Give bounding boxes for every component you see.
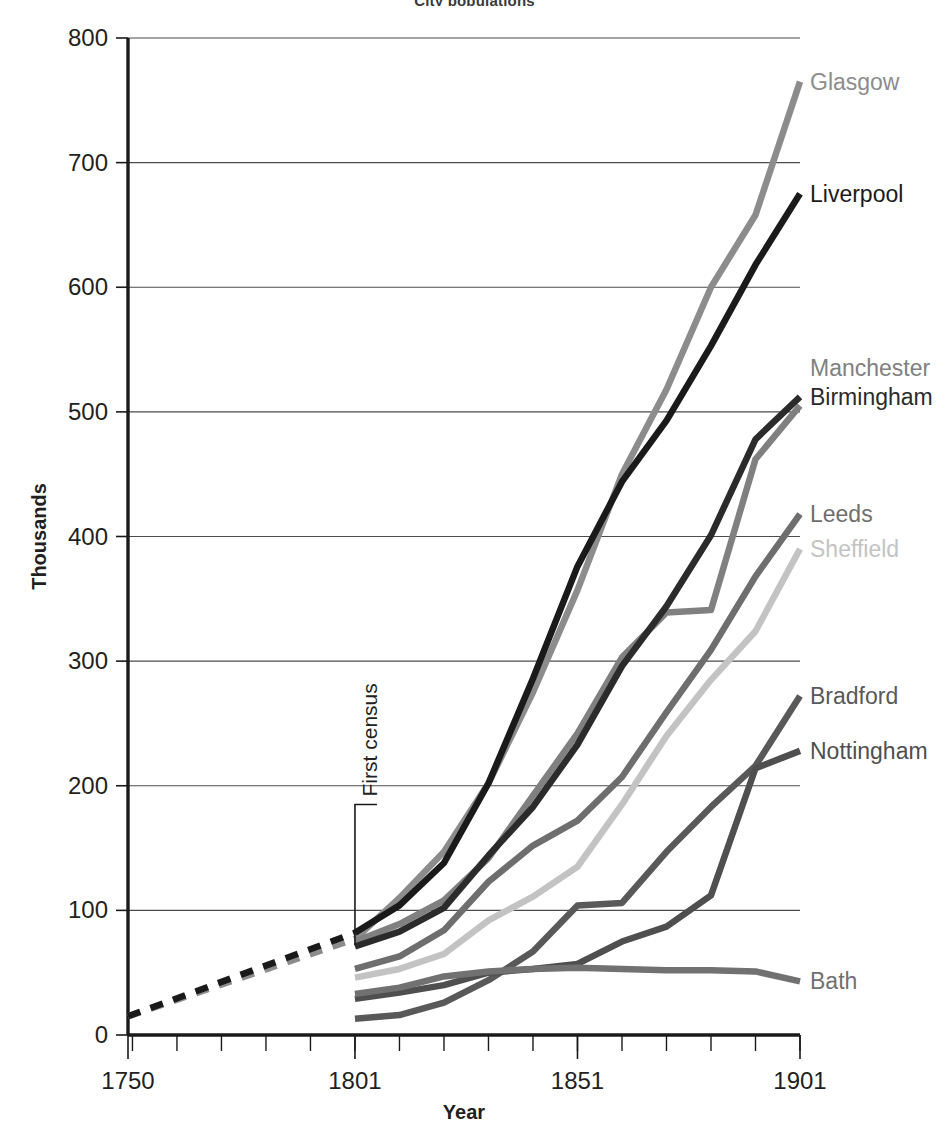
series-label-liverpool: Liverpool (810, 181, 903, 207)
y-axis-title: Thousands (28, 483, 50, 590)
series-labels-group: GlasgowLiverpoolManchesterBirminghamLeed… (810, 69, 933, 995)
series-line-glasgow (355, 82, 800, 939)
y-tick-group: 0100200300400500600700800 (68, 24, 128, 1048)
x-tick-label: 1901 (773, 1067, 826, 1094)
series-label-nottingham: Nottingham (810, 738, 928, 764)
x-tick-label: 1801 (328, 1067, 381, 1094)
y-tick-label: 500 (68, 398, 108, 425)
population-line-chart: 0100200300400500600700800 17501801185119… (0, 0, 949, 1141)
first-census-annotation: First census (355, 683, 381, 945)
series-label-sheffield: Sheffield (810, 536, 899, 562)
series-label-glasgow: Glasgow (810, 69, 900, 95)
series-label-birmingham: Birmingham (810, 384, 933, 410)
y-tick-label: 200 (68, 772, 108, 799)
x-tick-label: 1750 (101, 1067, 154, 1094)
chart-page: City populations 01002003004005006007008… (0, 0, 949, 1141)
series-lines-group (355, 82, 800, 1019)
series-dashed-estimate-liverpool (128, 933, 355, 1016)
y-tick-label: 300 (68, 647, 108, 674)
y-tick-label: 100 (68, 896, 108, 923)
gridlines-group (128, 38, 800, 910)
y-tick-label: 0 (95, 1021, 108, 1048)
first-census-label: First census (358, 683, 381, 796)
series-label-manchester: Manchester (810, 355, 931, 381)
series-label-leeds: Leeds (810, 501, 873, 527)
y-tick-label: 800 (68, 24, 108, 51)
x-tick-label: 1851 (551, 1067, 604, 1094)
x-axis-title: Year (443, 1101, 485, 1123)
y-tick-label: 700 (68, 149, 108, 176)
series-label-bradford: Bradford (810, 683, 898, 709)
pre-census-dashed-series-group (128, 933, 355, 1016)
series-label-bath: Bath (810, 968, 857, 994)
y-tick-label: 400 (68, 523, 108, 550)
y-tick-label: 600 (68, 273, 108, 300)
